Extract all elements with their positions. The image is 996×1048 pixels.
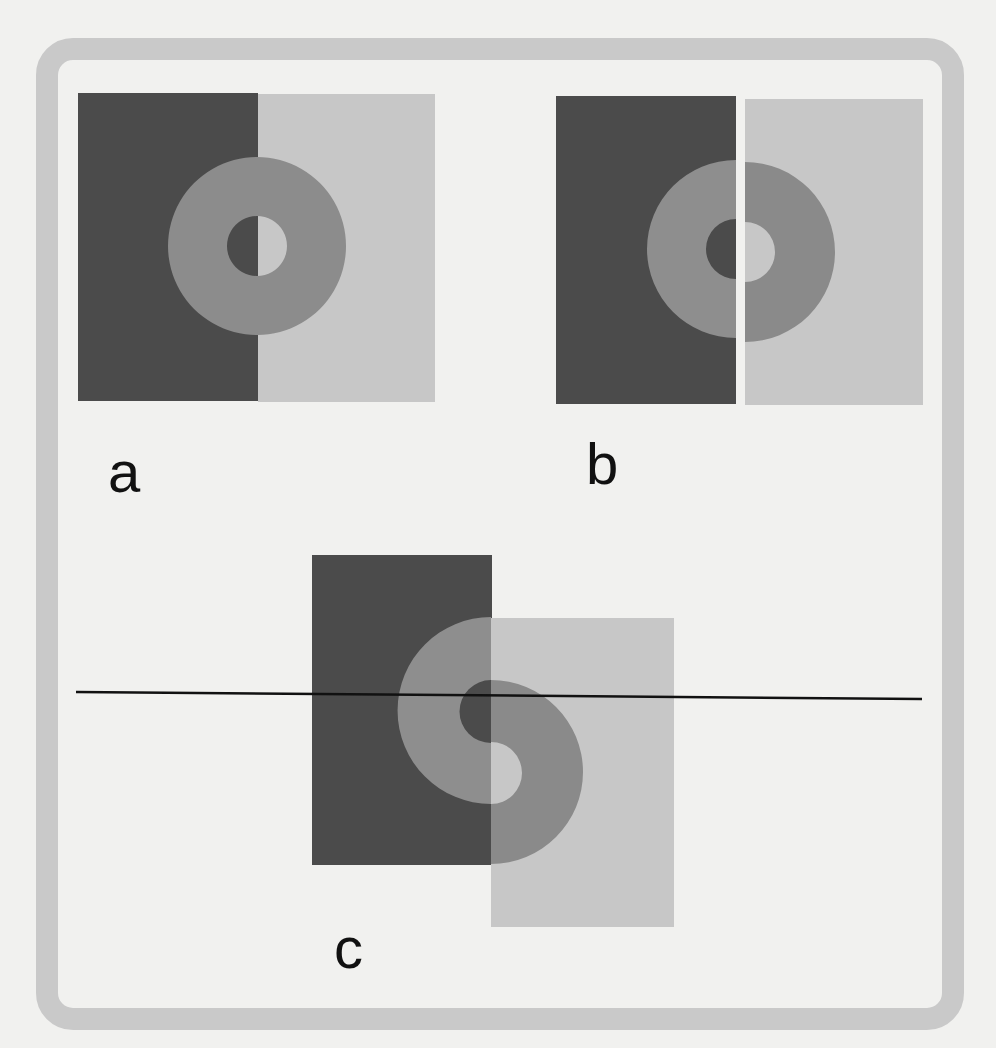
- panel-a-label: a: [108, 439, 141, 504]
- illusion-figure: a b c: [0, 0, 996, 1048]
- panel-b: b: [556, 96, 923, 496]
- panel-a-light-field: [258, 94, 435, 402]
- panel-c: c: [76, 555, 922, 980]
- panel-c-label: c: [334, 915, 363, 980]
- panel-a-dark-field: [78, 93, 258, 401]
- panel-a: a: [78, 93, 435, 504]
- panel-b-dark-field: [556, 96, 736, 404]
- panel-b-label: b: [586, 431, 618, 496]
